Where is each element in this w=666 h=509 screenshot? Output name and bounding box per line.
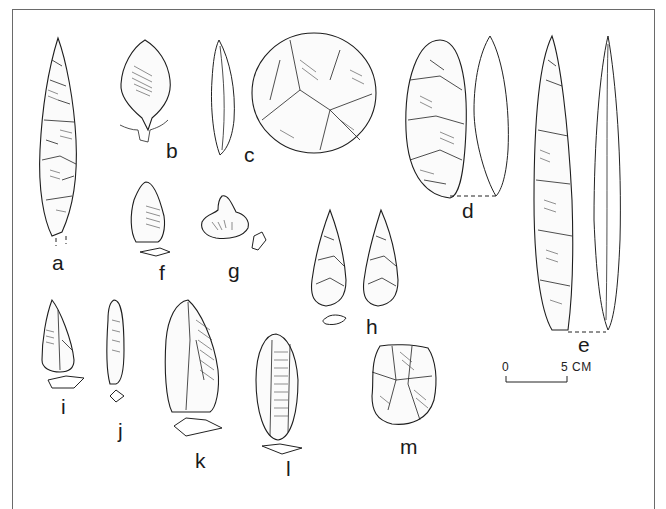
artifact-j-drawing xyxy=(107,300,124,402)
label-m: m xyxy=(400,436,418,457)
label-j: j xyxy=(118,420,123,441)
label-f: f xyxy=(159,262,165,283)
artifact-f-drawing xyxy=(131,182,170,256)
label-l: l xyxy=(286,458,291,479)
artifact-k-drawing xyxy=(165,300,222,436)
artifact-m-drawing xyxy=(372,345,436,425)
label-b: b xyxy=(166,140,178,161)
artifact-a-drawing xyxy=(40,38,77,246)
artifact-c-drawing xyxy=(211,33,376,155)
artifact-g-drawing xyxy=(202,196,266,250)
label-d: d xyxy=(462,200,474,221)
scale-bar xyxy=(506,376,567,382)
label-h: h xyxy=(366,316,378,337)
artifact-e-drawing xyxy=(534,36,620,332)
scale-end-label: 5 CM xyxy=(561,360,592,374)
artifact-l-drawing xyxy=(256,334,302,454)
artifact-h-drawing xyxy=(312,210,398,325)
label-g: g xyxy=(228,260,240,281)
label-k: k xyxy=(195,450,206,471)
artifact-i-drawing xyxy=(42,300,84,388)
label-e: e xyxy=(578,334,590,355)
scale-start-label: 0 xyxy=(502,360,509,374)
label-c: c xyxy=(244,144,255,165)
label-a: a xyxy=(52,252,64,273)
artifact-b-drawing xyxy=(120,40,170,142)
label-i: i xyxy=(61,396,66,417)
artifact-d-drawing xyxy=(406,36,509,198)
